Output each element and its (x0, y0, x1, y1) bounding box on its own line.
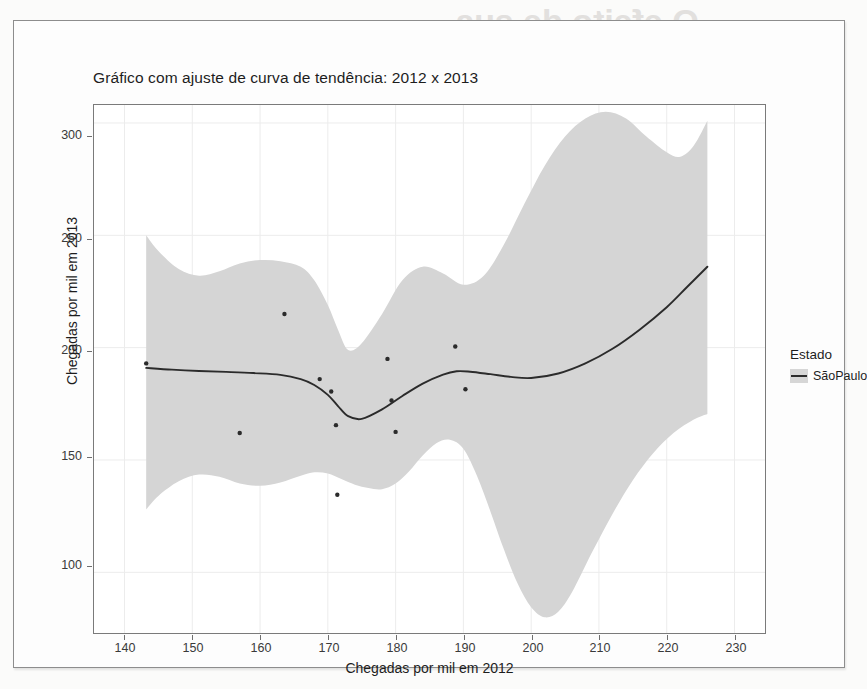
x-tickmark-220 (667, 635, 668, 640)
x-tick-label-140: 140 (100, 641, 150, 655)
x-tick-label-190: 190 (440, 641, 490, 655)
x-tickmark-160 (260, 635, 261, 640)
y-tickmark-300 (87, 136, 92, 137)
legend-item-label: SãoPaulo (813, 369, 867, 383)
x-tick-label-180: 180 (372, 641, 422, 655)
x-tick-label-170: 170 (304, 641, 354, 655)
x-tickmark-180 (396, 635, 397, 640)
y-tickmark-250 (87, 239, 92, 240)
y-axis-title: Chegadas por mil em 2013 (64, 181, 80, 421)
confidence-ribbon (146, 112, 707, 618)
y-tickmark-100 (87, 566, 92, 567)
x-tickmark-210 (599, 635, 600, 640)
plot-panel (93, 104, 766, 634)
legend: Estado SãoPaulo (790, 347, 867, 383)
x-tick-label-150: 150 (168, 641, 218, 655)
scanned-page-background: O efeito de sua singular Gráfico com aju… (0, 0, 867, 689)
x-tick-label-160: 160 (236, 641, 286, 655)
x-tick-label-230: 230 (711, 641, 761, 655)
x-tickmark-230 (735, 635, 736, 640)
legend-title: Estado (790, 347, 867, 362)
legend-key-icon (790, 369, 808, 383)
x-tick-label-200: 200 (508, 641, 558, 655)
x-tickmark-170 (328, 635, 329, 640)
figure-frame: Gráfico com ajuste de curva de tendência… (13, 20, 845, 668)
y-tickmark-150 (87, 457, 92, 458)
y-tick-label-150: 150 (38, 449, 82, 463)
y-tick-label-300: 300 (38, 128, 82, 142)
y-tick-label-100: 100 (38, 558, 82, 572)
page-title: Gráfico com ajuste de curva de tendência… (93, 69, 478, 87)
x-tickmark-200 (532, 635, 533, 640)
x-tick-label-220: 220 (643, 641, 693, 655)
x-tick-label-210: 210 (575, 641, 625, 655)
x-tickmark-140 (124, 635, 125, 640)
x-axis-title: Chegadas por mil em 2012 (93, 660, 766, 676)
legend-item-saopaulo[interactable]: SãoPaulo (790, 369, 867, 383)
x-tickmark-190 (464, 635, 465, 640)
y-tickmark-200 (87, 351, 92, 352)
x-tickmark-150 (192, 635, 193, 640)
scatter-plot-svg (94, 105, 765, 633)
